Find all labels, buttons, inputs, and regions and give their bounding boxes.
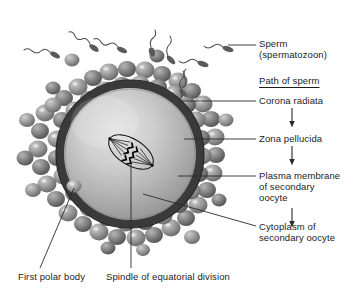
label-path-of-sperm: Path of sperm — [259, 75, 319, 87]
diagram-canvas — [0, 0, 357, 294]
oocyte-cytoplasm — [64, 88, 196, 220]
first-polar-body — [67, 180, 82, 193]
label-plasma-membrane-line2: of secondary — [259, 181, 315, 193]
label-spindle: Spindle of equatorial division — [106, 271, 230, 283]
label-corona-radiata: Corona radiata — [259, 95, 323, 107]
label-first-polar-body: First polar body — [18, 271, 85, 283]
label-sperm-line1: Sperm — [259, 38, 287, 50]
label-plasma-membrane-line3: oocyte — [259, 192, 288, 204]
label-sperm-line2: (spermatozoon) — [259, 49, 327, 61]
oocyte-fertilization-diagram: Sperm (spermatozoon) Path of sperm Coron… — [0, 0, 357, 294]
label-zona-pellucida: Zona pellucida — [259, 133, 322, 145]
label-cytoplasm-line2: secondary oocyte — [259, 232, 335, 244]
label-cytoplasm-line1: Cytoplasm of — [259, 221, 316, 233]
label-plasma-membrane-line1: Plasma membrane — [259, 170, 340, 182]
